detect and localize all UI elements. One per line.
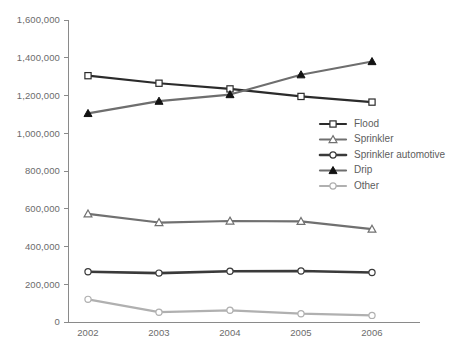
data-point-marker — [156, 270, 162, 276]
data-point-marker — [227, 307, 233, 313]
legend-item-sprinkler[interactable]: Sprinkler — [320, 133, 394, 144]
data-point-marker — [85, 73, 91, 79]
legend-item-drip[interactable]: Drip — [320, 164, 373, 175]
y-axis-tick-label: 0 — [55, 316, 60, 327]
legend: FloodSprinklerSprinkler automotiveDripOt… — [320, 118, 446, 191]
x-axis-tick-label: 2003 — [148, 327, 170, 338]
legend-label: Sprinkler automotive — [354, 149, 446, 160]
y-axis-tick-label: 1,400,000 — [17, 52, 60, 63]
series-sprinkler — [84, 210, 376, 232]
legend-marker — [330, 183, 336, 189]
legend-label: Flood — [354, 118, 379, 129]
y-axis-tick-label: 1,200,000 — [17, 90, 60, 101]
data-point-marker — [369, 312, 375, 318]
series-sprinkler-automotive — [85, 268, 375, 276]
y-axis-tick-label: 800,000 — [25, 165, 60, 176]
y-axis-tick-label: 400,000 — [25, 241, 60, 252]
legend-item-sprinkler-automotive[interactable]: Sprinkler automotive — [320, 149, 446, 160]
data-point-marker — [156, 80, 162, 86]
data-point-marker — [156, 309, 162, 315]
legend-item-flood[interactable]: Flood — [320, 118, 379, 129]
chart-canvas: 0200,000400,000600,000800,0001,000,0001,… — [0, 0, 453, 346]
data-point-marker — [298, 93, 304, 99]
legend-item-other[interactable]: Other — [320, 180, 380, 191]
y-axis-tick-label: 1,000,000 — [17, 128, 60, 139]
legend-label: Drip — [354, 164, 373, 175]
legend-label: Sprinkler — [354, 133, 394, 144]
legend-marker — [330, 152, 336, 158]
data-point-marker — [85, 269, 91, 275]
data-point-marker — [85, 296, 91, 302]
data-point-marker — [369, 99, 375, 105]
line-chart: 0200,000400,000600,000800,0001,000,0001,… — [0, 0, 453, 346]
x-axis-tick-label: 2006 — [361, 327, 383, 338]
y-axis-tick-label: 1,600,000 — [17, 14, 60, 25]
data-point-marker — [369, 269, 375, 275]
x-axis-tick-label: 2005 — [290, 327, 312, 338]
data-point-marker — [298, 311, 304, 317]
y-axis-tick-label: 200,000 — [25, 279, 60, 290]
legend-label: Other — [354, 180, 380, 191]
data-point-marker — [227, 268, 233, 274]
data-point-marker — [298, 268, 304, 274]
x-axis-tick-label: 2004 — [219, 327, 241, 338]
legend-marker — [330, 121, 336, 127]
x-axis-tick-label: 2002 — [77, 327, 99, 338]
series-other — [85, 296, 375, 318]
y-axis-tick-label: 600,000 — [25, 203, 60, 214]
series-flood — [85, 73, 375, 106]
